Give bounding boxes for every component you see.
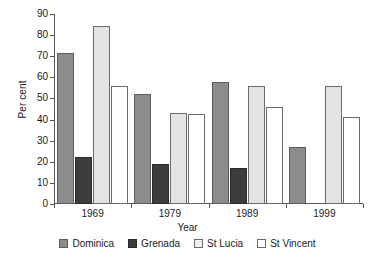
y-tick-mark-90	[50, 14, 54, 15]
bar-dominica-1989	[212, 82, 229, 204]
y-axis-line	[54, 14, 55, 204]
y-tick-label-30: 30	[6, 136, 48, 146]
x-tick-label-1989: 1989	[217, 208, 277, 219]
bar-grenada-1989	[230, 168, 247, 204]
y-tick-label-50: 50	[6, 93, 48, 103]
y-tick-mark-70	[50, 56, 54, 57]
legend-swatch-stvincent	[257, 239, 266, 248]
x-tick-label-1969: 1969	[63, 208, 123, 219]
bar-chart: Per cent 0102030405060708090 19691979198…	[0, 0, 375, 261]
legend: DominicaGrenadaSt LuciaSt Vincent	[0, 238, 375, 249]
x-tick-mark-1989	[286, 204, 287, 208]
bar-stlucia-1999	[325, 86, 342, 204]
y-tick-label-90: 90	[6, 9, 48, 19]
legend-label-stvincent: St Vincent	[270, 238, 315, 249]
y-tick-mark-10	[50, 183, 54, 184]
bar-stvincent-1979	[188, 114, 205, 204]
legend-label-dominica: Dominica	[72, 238, 114, 249]
x-axis-title: Year	[0, 222, 375, 233]
legend-item-dominica[interactable]: Dominica	[59, 238, 114, 249]
y-tick-mark-80	[50, 35, 54, 36]
legend-swatch-dominica	[59, 239, 68, 248]
x-tick-mark-1999	[363, 204, 364, 208]
x-tick-label-1999: 1999	[294, 208, 354, 219]
x-tick-label-1979: 1979	[140, 208, 200, 219]
x-tick-mark-1979	[209, 204, 210, 208]
bar-grenada-1979	[152, 164, 169, 204]
legend-item-grenada[interactable]: Grenada	[128, 238, 180, 249]
legend-label-stlucia: St Lucia	[207, 238, 243, 249]
x-tick-mark-origin	[54, 204, 55, 208]
y-tick-label-80: 80	[6, 30, 48, 40]
y-tick-mark-60	[50, 77, 54, 78]
legend-item-stlucia[interactable]: St Lucia	[194, 238, 243, 249]
y-tick-mark-50	[50, 98, 54, 99]
y-tick-label-20: 20	[6, 157, 48, 167]
bar-stvincent-1969	[111, 86, 128, 204]
bar-stlucia-1989	[248, 86, 265, 204]
y-tick-mark-40	[50, 120, 54, 121]
y-tick-label-70: 70	[6, 51, 48, 61]
bar-stvincent-1999	[343, 117, 360, 204]
x-tick-mark-1969	[131, 204, 132, 208]
plot-area: 0102030405060708090	[54, 14, 363, 204]
y-tick-label-10: 10	[6, 178, 48, 188]
y-tick-mark-20	[50, 162, 54, 163]
legend-label-grenada: Grenada	[141, 238, 180, 249]
bar-grenada-1969	[75, 157, 92, 205]
legend-swatch-grenada	[128, 239, 137, 248]
bar-dominica-1999	[289, 147, 306, 204]
y-tick-mark-30	[50, 141, 54, 142]
bar-stvincent-1989	[266, 107, 283, 204]
bar-dominica-1979	[134, 94, 151, 204]
legend-item-stvincent[interactable]: St Vincent	[257, 238, 315, 249]
bar-dominica-1969	[57, 53, 74, 204]
y-tick-label-60: 60	[6, 72, 48, 82]
legend-swatch-stlucia	[194, 239, 203, 248]
bar-stlucia-1969	[93, 26, 110, 204]
y-tick-label-0: 0	[6, 199, 48, 209]
bar-stlucia-1979	[170, 113, 187, 204]
y-tick-label-40: 40	[6, 115, 48, 125]
